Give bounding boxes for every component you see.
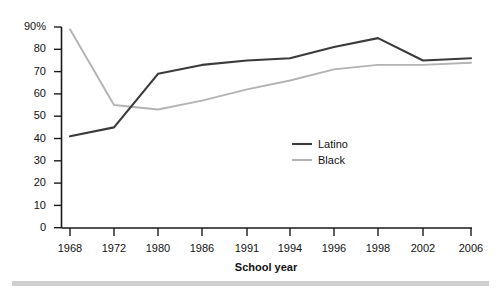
y-tick-label-90: 90% — [8, 21, 46, 32]
y-tick-label-20: 20 — [8, 177, 46, 188]
chart-figure: 90% 80 70 60 50 40 30 20 10 0 1968 1972 … — [0, 0, 501, 293]
x-tick-label-1968: 1968 — [50, 243, 90, 254]
x-tick-label-2002: 2002 — [403, 243, 443, 254]
y-tick-label-50: 50 — [8, 110, 46, 121]
y-tick-label-80: 80 — [8, 43, 46, 54]
y-tick-label-10: 10 — [8, 200, 46, 211]
x-tick-label-1986: 1986 — [182, 243, 222, 254]
y-tick-label-30: 30 — [8, 155, 46, 166]
x-tick-label-1998: 1998 — [358, 243, 398, 254]
y-tick-label-60: 60 — [8, 88, 46, 99]
x-tick-label-1994: 1994 — [270, 243, 310, 254]
series-line-black — [70, 29, 471, 109]
y-tick-label-0: 0 — [8, 222, 46, 233]
x-tick-label-1996: 1996 — [314, 243, 354, 254]
y-tick-label-70: 70 — [8, 66, 46, 77]
x-tick-label-1991: 1991 — [227, 243, 267, 254]
x-axis-title: School year — [206, 261, 326, 273]
legend-label-black: Black — [318, 154, 345, 166]
x-tick-label-1972: 1972 — [94, 243, 134, 254]
y-tick-label-40: 40 — [8, 133, 46, 144]
x-tick-label-2006: 2006 — [451, 243, 491, 254]
x-tick-label-1980: 1980 — [138, 243, 178, 254]
footer-rule — [12, 281, 489, 286]
x-axis-ticks — [70, 228, 471, 236]
legend-label-latino: Latino — [318, 138, 348, 150]
y-axis-ticks — [54, 27, 62, 228]
series-line-latino — [70, 38, 471, 136]
